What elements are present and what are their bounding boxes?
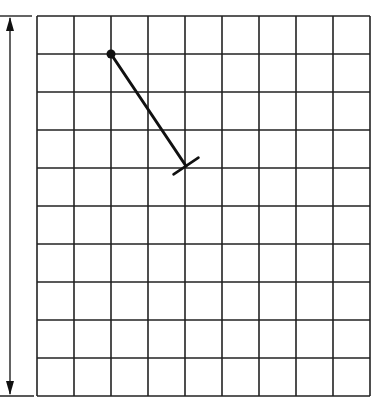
end-tick-icon — [174, 158, 199, 175]
arrowhead-down-icon — [6, 381, 14, 395]
grid-diagram — [0, 0, 373, 400]
arrowhead-up-icon — [6, 17, 14, 31]
grid-lines — [37, 16, 370, 396]
height-arrow — [0, 16, 34, 396]
start-dot-icon — [107, 50, 116, 59]
